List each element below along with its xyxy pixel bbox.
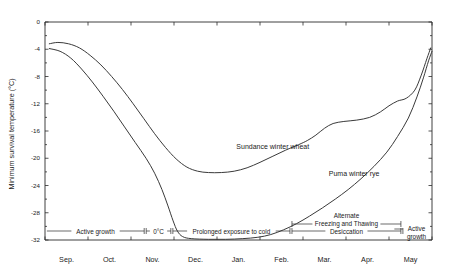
series-label: Sundance winter wheat — [236, 143, 309, 150]
figure-container: 0-4-8-12-16-20-24-28-32 Sep.Oct.Nov.Dec.… — [0, 0, 449, 280]
y-tick-label: -16 — [31, 127, 41, 134]
phase-label: Prolonged exposure to cold — [192, 228, 270, 236]
y-axis-ticks — [45, 22, 432, 240]
x-tick-label: Nov. — [145, 255, 159, 264]
y-tick-label: -28 — [31, 209, 41, 216]
x-tick-label: Mar. — [318, 255, 332, 264]
phase-segment: Activegrowth — [394, 225, 426, 241]
y-tick-label: -24 — [31, 182, 41, 189]
y-tick-label: -8 — [34, 73, 40, 80]
y-axis-tick-labels: 0-4-8-12-16-20-24-28-32 — [31, 18, 41, 243]
phase-label: Active growth — [76, 228, 115, 236]
alternate-label-line1: Alternate — [334, 212, 360, 219]
y-axis-title: Minimum survival temperature (°C) — [7, 78, 16, 189]
y-tick-label: 0 — [37, 18, 41, 25]
y-tick-label: -32 — [31, 236, 41, 243]
y-tick-label: -4 — [34, 45, 40, 52]
x-axis-ticks — [45, 22, 432, 240]
phase-segment: Desiccation — [292, 228, 401, 235]
series-line-1 — [49, 42, 430, 172]
alternate-label-line2: Freezing and Thawing — [315, 220, 379, 228]
data-curves — [49, 42, 432, 239]
line-chart: 0-4-8-12-16-20-24-28-32 Sep.Oct.Nov.Dec.… — [0, 0, 449, 280]
x-tick-label: Dec. — [188, 255, 203, 264]
axes-group — [45, 22, 432, 240]
x-tick-label: Feb. — [274, 255, 288, 264]
phase-label: Desiccation — [330, 228, 363, 235]
phase-segment: Prolonged exposure to cold — [173, 228, 290, 236]
x-tick-label: Oct. — [103, 255, 116, 264]
x-tick-label: May — [404, 255, 418, 264]
series-labels: Sundance winter wheatPuma winter rye — [236, 143, 379, 178]
x-tick-label: Jan. — [232, 255, 246, 264]
y-tick-label: -20 — [31, 154, 41, 161]
series-label: Puma winter rye — [329, 170, 380, 178]
phase-segment: Active growth — [47, 228, 144, 236]
plot-frame — [45, 22, 432, 240]
phase-label-line2: growth — [407, 233, 427, 241]
alternate-freezing-annotation: AlternateFreezing and Thawing — [292, 212, 401, 228]
x-axis-tick-labels: Sep.Oct.Nov.Dec.Jan.Feb.Mar.Apr.May — [59, 255, 418, 264]
phase-segment: 0°C — [146, 228, 171, 235]
x-tick-label: Apr. — [361, 255, 374, 264]
x-tick-label: Sep. — [59, 255, 74, 264]
y-tick-label: -12 — [31, 100, 41, 107]
phase-label: 0°C — [153, 228, 164, 235]
phase-label: Active — [408, 225, 426, 232]
